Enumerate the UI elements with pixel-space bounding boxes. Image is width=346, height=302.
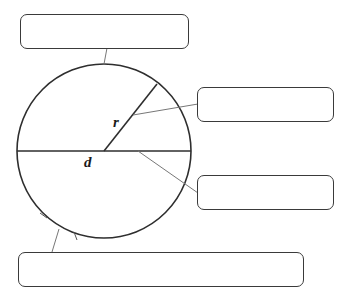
answer-box-radius[interactable] bbox=[197, 87, 334, 122]
diameter-label: d bbox=[84, 155, 92, 170]
leader-line-radius bbox=[133, 104, 198, 115]
leader-line-top bbox=[104, 48, 107, 64]
answer-box-top[interactable] bbox=[20, 14, 189, 49]
radius-label: r bbox=[113, 115, 119, 130]
answer-box-diameter[interactable] bbox=[197, 175, 334, 210]
leader-line-circumference bbox=[52, 229, 59, 252]
answer-box-bottom[interactable] bbox=[18, 252, 304, 287]
radius-line bbox=[104, 84, 157, 151]
